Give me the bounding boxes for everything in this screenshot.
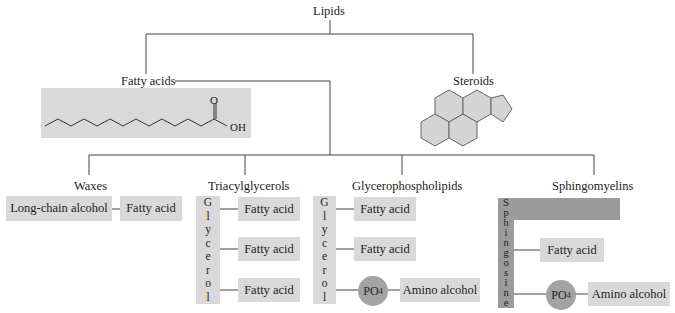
sphingomyelins-label: Sphingomyelins xyxy=(552,179,633,193)
sphingosine-backbone: Sphingosine xyxy=(498,198,514,308)
glycerol-backbone: Glycerol xyxy=(196,196,220,304)
triacylglycerols-label: Triacylglycerols xyxy=(208,179,289,193)
fatty-acids-label: Fatty acids xyxy=(121,74,176,88)
wax-fatty-acid-box: Fatty acid xyxy=(120,196,182,221)
tag-fatty-acid-3: Fatty acid xyxy=(238,278,300,302)
gp-amino-alcohol-box: Amino alcohol xyxy=(400,278,480,302)
gp-fatty-acid-1: Fatty acid xyxy=(354,197,416,221)
glycerol-backbone-gp: Glycerol xyxy=(313,196,336,304)
long-chain-alcohol-box: Long-chain alcohol xyxy=(6,196,112,221)
tag-fatty-acid-1: Fatty acid xyxy=(238,197,300,221)
sm-fatty-acid-box: Fatty acid xyxy=(540,238,604,262)
glycerophospholipids-label: Glycerophospholipids xyxy=(352,179,462,193)
steroid-rings xyxy=(421,90,512,146)
hydroxyl-label: OH xyxy=(230,120,246,134)
sphingosine-top-bar xyxy=(498,198,620,220)
connector-lines xyxy=(0,0,675,313)
sm-phosphate-circle: PO4 xyxy=(546,280,576,310)
waxes-label: Waxes xyxy=(74,179,107,193)
carbonyl-label: O xyxy=(210,93,218,107)
gp-fatty-acid-2: Fatty acid xyxy=(354,237,416,261)
fatty-acid-structure-bg xyxy=(41,88,251,138)
tag-fatty-acid-2: Fatty acid xyxy=(238,237,300,261)
sm-amino-alcohol-box: Amino alcohol xyxy=(588,282,670,306)
steroids-label: Steroids xyxy=(453,74,494,88)
gp-phosphate-circle: PO4 xyxy=(358,276,388,306)
lipids-title: Lipids xyxy=(313,4,345,18)
